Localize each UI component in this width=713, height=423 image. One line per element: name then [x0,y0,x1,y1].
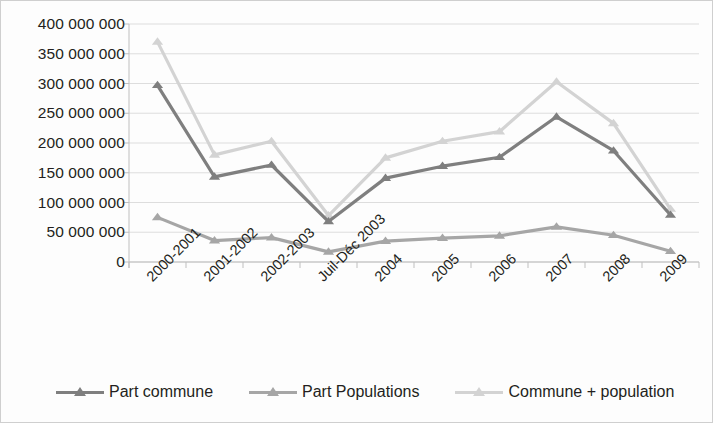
y-tick-label: 350 000 000 [38,46,125,62]
chart-plot-area [1,1,713,423]
y-tick-label: 250 000 000 [38,105,125,121]
y-tick-label: 50 000 000 [46,224,125,240]
data-point-marker [266,160,277,167]
legend-triangle-icon [473,387,485,396]
data-point-marker [152,213,163,220]
data-series-layer [152,37,676,254]
data-point-marker [152,37,163,44]
gridlines [129,24,699,262]
legend-label: Commune + population [508,383,674,401]
legend-item[interactable]: Commune + population [455,383,674,401]
legend-key-icon [249,385,297,399]
chart-container: 400 000 000350 000 000300 000 000250 000… [0,0,713,423]
legend-triangle-icon [267,387,279,396]
legend-item[interactable]: Part commune [56,383,213,401]
y-tick-label: 400 000 000 [38,16,125,32]
y-tick-label: 100 000 000 [38,195,125,211]
legend-item[interactable]: Part Populations [249,383,419,401]
series-line [158,42,671,216]
chart-legend: Part communePart PopulationsCommune + po… [56,379,676,405]
series-line [158,85,671,221]
y-tick-label: 200 000 000 [38,135,125,151]
y-tick-label: 300 000 000 [38,76,125,92]
legend-label: Part Populations [302,383,419,401]
legend-key-icon [56,385,104,399]
legend-key-icon [455,385,503,399]
legend-label: Part commune [109,383,213,401]
data-point-marker [551,77,562,84]
y-tick-label: 0 [116,254,125,270]
y-tick-label: 150 000 000 [38,165,125,181]
legend-triangle-icon [74,387,86,396]
data-point-marker [266,137,277,144]
data-point-marker [152,81,163,88]
series-commune-population [152,37,676,218]
